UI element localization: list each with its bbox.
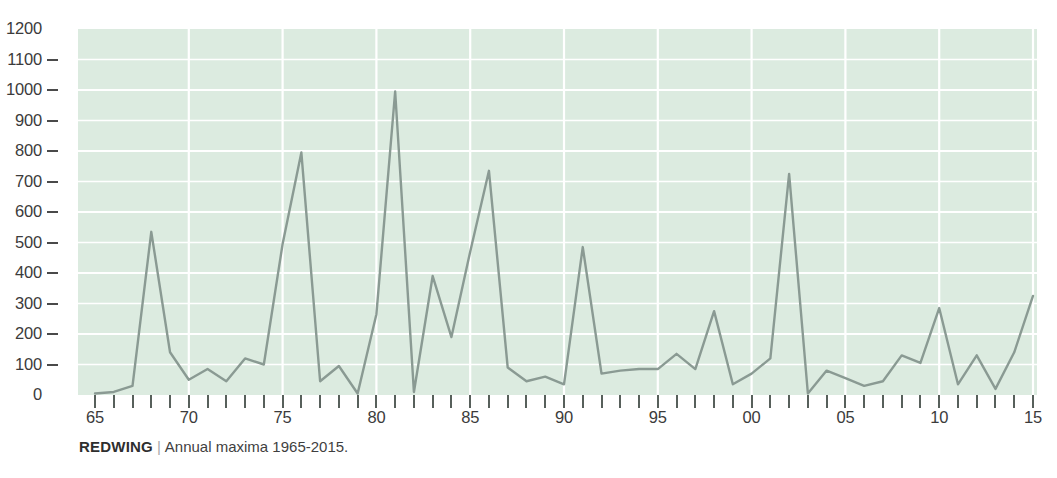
x-axis-tick	[619, 395, 621, 408]
x-axis-label: 85	[461, 408, 479, 427]
x-axis-label: 75	[274, 408, 292, 427]
line-chart-svg	[78, 29, 1037, 395]
y-axis-tick	[47, 242, 58, 244]
y-axis: 0100200300400500600700800900100011001200	[0, 0, 62, 478]
x-axis-label: 90	[555, 408, 573, 427]
x-axis-label: 70	[180, 408, 198, 427]
x-axis-tick	[225, 395, 227, 408]
y-axis-label: 600	[15, 203, 42, 220]
x-axis-tick	[994, 395, 996, 408]
x-axis-tick	[638, 395, 640, 408]
x-axis-tick	[563, 395, 565, 408]
y-axis-tick	[47, 211, 58, 213]
x-axis-tick	[1013, 395, 1015, 408]
x-axis-tick	[882, 395, 884, 408]
x-axis-tick	[807, 395, 809, 408]
x-axis-tick	[826, 395, 828, 408]
x-axis-tick	[207, 395, 209, 408]
x-axis-tick	[488, 395, 490, 408]
caption-description: Annual maxima 1965-2015.	[165, 438, 348, 455]
x-axis-tick	[694, 395, 696, 408]
x-axis-tick	[300, 395, 302, 408]
chart-caption: REDWING|Annual maxima 1965-2015.	[79, 438, 348, 455]
y-axis-tick	[47, 59, 58, 61]
y-axis-label: 800	[15, 142, 42, 159]
x-axis-label: 65	[86, 408, 104, 427]
x-axis-tick	[319, 395, 321, 408]
y-axis-tick	[47, 272, 58, 274]
y-axis-label: 200	[15, 325, 42, 342]
y-axis-label: 0	[33, 386, 42, 403]
x-axis-tick	[357, 395, 359, 408]
x-axis-tick	[375, 395, 377, 408]
y-axis-label: 1000	[6, 81, 42, 98]
x-axis-tick	[751, 395, 753, 408]
chart-root: 0100200300400500600700800900100011001200…	[0, 0, 1057, 478]
x-axis-tick	[769, 395, 771, 408]
y-axis-label: 400	[15, 264, 42, 281]
x-axis-tick	[150, 395, 152, 408]
x-axis-label: 95	[649, 408, 667, 427]
y-axis-label: 900	[15, 112, 42, 129]
x-axis-tick	[113, 395, 115, 408]
x-axis-tick	[919, 395, 921, 408]
x-axis-tick	[788, 395, 790, 408]
x-axis-tick	[188, 395, 190, 408]
x-axis-tick	[582, 395, 584, 408]
x-axis-tick	[394, 395, 396, 408]
x-axis-tick	[657, 395, 659, 408]
x-axis-tick	[507, 395, 509, 408]
x-axis-tick	[282, 395, 284, 408]
x-axis-tick	[676, 395, 678, 408]
x-axis-tick	[976, 395, 978, 408]
y-axis-tick	[47, 333, 58, 335]
caption-divider: |	[153, 438, 165, 455]
x-axis-tick	[544, 395, 546, 408]
x-axis-tick	[601, 395, 603, 408]
x-axis-tick	[957, 395, 959, 408]
x-axis-labels: 6570758085909500051015	[0, 408, 1057, 436]
x-axis-label: 00	[743, 408, 761, 427]
x-axis-tick	[413, 395, 415, 408]
y-axis-tick	[47, 150, 58, 152]
x-axis-tick	[132, 395, 134, 408]
x-axis-label: 05	[836, 408, 854, 427]
y-axis-tick	[47, 120, 58, 122]
x-axis-tick	[525, 395, 527, 408]
x-axis-tick	[713, 395, 715, 408]
y-axis-label: 100	[15, 356, 42, 373]
y-axis-label: 700	[15, 173, 42, 190]
x-axis-tick	[169, 395, 171, 408]
x-axis-tick	[732, 395, 734, 408]
y-axis-label: 500	[15, 234, 42, 251]
y-axis-tick	[47, 89, 58, 91]
x-axis-tick	[844, 395, 846, 408]
x-axis-label: 10	[930, 408, 948, 427]
x-axis-tick	[901, 395, 903, 408]
x-axis-tick	[863, 395, 865, 408]
x-axis-label: 80	[367, 408, 385, 427]
y-axis-label: 300	[15, 295, 42, 312]
x-axis-tick	[469, 395, 471, 408]
x-axis-tick	[1032, 395, 1034, 408]
plot-area	[78, 29, 1037, 395]
caption-source: REDWING	[79, 438, 153, 455]
y-axis-tick	[47, 364, 58, 366]
x-axis-tick	[432, 395, 434, 408]
x-axis-label: 15	[1024, 408, 1042, 427]
x-axis-tick	[338, 395, 340, 408]
x-axis-tick	[94, 395, 96, 408]
x-axis-tick	[263, 395, 265, 408]
y-axis-tick	[47, 181, 58, 183]
x-axis-tick	[938, 395, 940, 408]
y-axis-label: 1200	[6, 20, 42, 37]
x-axis-tick	[450, 395, 452, 408]
y-axis-tick	[47, 303, 58, 305]
x-axis-tick	[244, 395, 246, 408]
y-axis-label: 1100	[7, 51, 42, 68]
